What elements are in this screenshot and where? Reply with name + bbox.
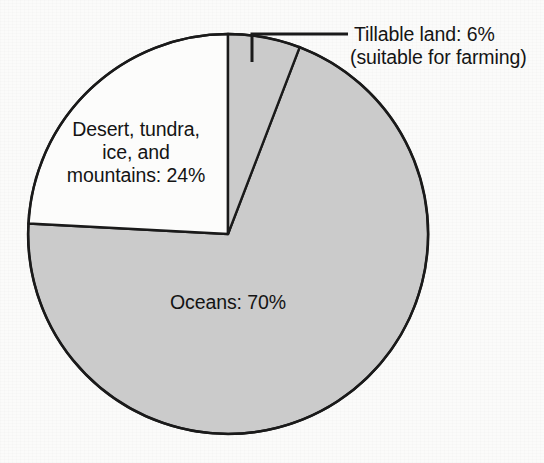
slice-label-tillable-line-2: (suitable for farming): [350, 46, 544, 69]
pie-chart-figure: Desert, tundra, ice, and mountains: 24% …: [0, 0, 544, 463]
slice-label-tillable-land: Tillable land: 6% (suitable for farming): [354, 23, 544, 69]
slice-label-desert-line-1: Desert, tundra,: [72, 118, 199, 140]
slice-label-oceans: Oceans: 70%: [128, 291, 328, 314]
slice-label-desert: Desert, tundra, ice, and mountains: 24%: [38, 118, 234, 187]
slice-label-tillable-line-1: Tillable land: 6%: [354, 23, 495, 45]
slice-label-desert-line-3: mountains: 24%: [67, 164, 205, 186]
pie-chart-graphic: [0, 0, 544, 463]
slice-label-desert-line-2: ice, and: [102, 141, 170, 163]
